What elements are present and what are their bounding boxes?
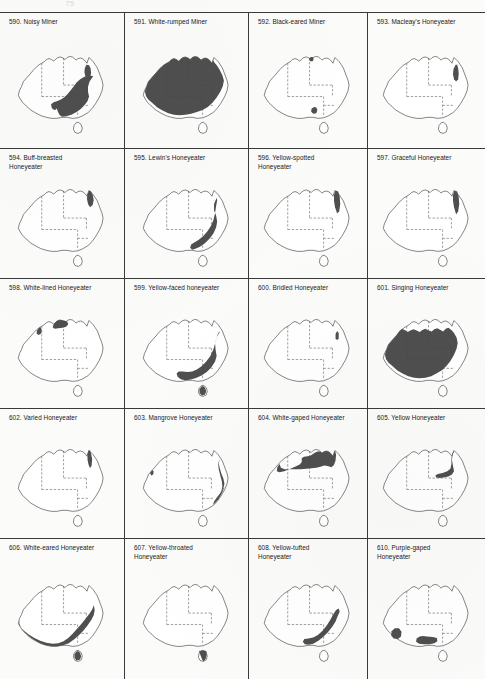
- map-caption: 600. Bridled Honeyeater: [258, 284, 364, 293]
- australia-map: [368, 171, 485, 276]
- australia-map: [368, 35, 485, 146]
- map-entry-name: Yellow-faced honeyeater: [148, 284, 219, 291]
- australia-map: [125, 561, 248, 677]
- australia-map: [249, 171, 367, 276]
- map-entry-number: 596.: [258, 154, 271, 161]
- map-entry-number: 607.: [134, 544, 147, 551]
- map-caption: 610. Purple-gaped Honeyeater: [377, 544, 482, 561]
- map-entry-number: 604.: [258, 414, 271, 421]
- map-entry-name: White-eared Honeyeater: [23, 544, 94, 551]
- australia-map: [125, 35, 248, 146]
- australia-map: [249, 301, 367, 406]
- map-entry-number: 603.: [134, 414, 147, 421]
- map-cell[interactable]: 595. Lewin's Honeyeater: [124, 148, 248, 278]
- map-caption: 592. Black-eared Miner: [258, 18, 364, 27]
- map-entry-number: 593.: [377, 18, 390, 25]
- australia-map: [368, 301, 485, 406]
- distribution-map-grid: 590. Noisy Miner: [0, 12, 485, 679]
- australia-map: [368, 431, 485, 536]
- map-caption: 599. Yellow-faced honeyeater: [134, 284, 245, 293]
- map-cell[interactable]: 607. Yellow-throated Honeyeater: [124, 538, 248, 679]
- australia-map: [0, 301, 124, 406]
- map-entry-name: Mangrove Honeyeater: [148, 414, 212, 421]
- map-entry-name: Varied Honeyeater: [23, 414, 77, 421]
- australia-map: [125, 301, 248, 406]
- map-entry-number: 592.: [258, 18, 271, 25]
- map-cell[interactable]: 600. Bridled Honeyeater: [248, 278, 367, 408]
- map-entry-name: Graceful Honeyeater: [391, 154, 451, 161]
- australia-map: [125, 431, 248, 536]
- map-entry-name: Lewin's Honeyeater: [148, 154, 205, 161]
- map-entry-number: 602.: [9, 414, 22, 421]
- australia-map: [125, 171, 248, 276]
- map-entry-number: 601.: [377, 284, 390, 291]
- map-entry-number: 605.: [377, 414, 390, 421]
- map-caption: 604. White-gaped Honeyeater: [258, 414, 364, 423]
- map-cell[interactable]: 592. Black-eared Miner: [248, 12, 367, 148]
- map-caption: 597. Graceful Honeyeater: [377, 154, 482, 163]
- map-caption: 601. Singing Honeyeater: [377, 284, 482, 293]
- map-cell[interactable]: 602. Varied Honeyeater: [0, 408, 124, 538]
- map-entry-number: 590.: [9, 18, 22, 25]
- australia-map: [249, 35, 367, 146]
- map-entry-number: 598.: [9, 284, 22, 291]
- australia-map: [0, 561, 124, 677]
- map-entry-number: 600.: [258, 284, 271, 291]
- australia-map: [0, 431, 124, 536]
- map-caption: 598. White-lined Honeyeater: [9, 284, 121, 293]
- map-cell[interactable]: 593. Macleay's Honeyeater: [367, 12, 485, 148]
- map-cell[interactable]: 596. Yellow-spotted Honeyeater: [248, 148, 367, 278]
- map-cell[interactable]: 594. Buff-breasted Honeyeater: [0, 148, 124, 278]
- map-cell[interactable]: 591. White-rumped Miner: [124, 12, 248, 148]
- atlas-page: 75 590. Noisy Miner: [0, 0, 485, 679]
- map-cell[interactable]: 606. White-eared Honeyeater: [0, 538, 124, 679]
- map-cell[interactable]: 599. Yellow-faced honeyeater: [124, 278, 248, 408]
- map-caption: 607. Yellow-throated Honeyeater: [134, 544, 245, 561]
- map-cell[interactable]: 605. Yellow Honeyeater: [367, 408, 485, 538]
- map-entry-number: 597.: [377, 154, 390, 161]
- map-entry-name: Singing Honeyeater: [391, 284, 448, 291]
- map-cell[interactable]: 604. White-gaped Honeyeater: [248, 408, 367, 538]
- australia-map: [249, 431, 367, 536]
- map-entry-name: Bridled Honeyeater: [272, 284, 328, 291]
- map-entry-name: Black-eared Miner: [272, 18, 325, 25]
- map-caption: 593. Macleay's Honeyeater: [377, 18, 482, 27]
- australia-map: [0, 35, 124, 146]
- map-entry-name: White-gaped Honeyeater: [272, 414, 344, 421]
- australia-map: [249, 561, 367, 677]
- map-caption: 602. Varied Honeyeater: [9, 414, 121, 423]
- map-caption: 594. Buff-breasted Honeyeater: [9, 154, 121, 171]
- map-caption: 608. Yellow-tufted Honeyeater: [258, 544, 364, 561]
- map-entry-number: 595.: [134, 154, 147, 161]
- map-entry-number: 591.: [134, 18, 147, 25]
- map-entry-name: Noisy Miner: [23, 18, 57, 25]
- map-cell[interactable]: 598. White-lined Honeyeater: [0, 278, 124, 408]
- map-caption: 591. White-rumped Miner: [134, 18, 245, 27]
- map-entry-number: 599.: [134, 284, 147, 291]
- map-entry-number: 610.: [377, 544, 390, 551]
- map-entry-number: 594.: [9, 154, 22, 161]
- map-entry-name: Yellow Honeyeater: [391, 414, 445, 421]
- map-caption: 606. White-eared Honeyeater: [9, 544, 121, 553]
- map-caption: 603. Mangrove Honeyeater: [134, 414, 245, 423]
- map-cell[interactable]: 610. Purple-gaped Honeyeater: [367, 538, 485, 679]
- australia-map: [368, 561, 485, 677]
- map-cell[interactable]: 597. Graceful Honeyeater: [367, 148, 485, 278]
- map-cell[interactable]: 603. Mangrove Honeyeater: [124, 408, 248, 538]
- map-entry-name: White-rumped Miner: [148, 18, 207, 25]
- map-entry-name: White-lined Honeyeater: [23, 284, 91, 291]
- map-entry-name: Macleay's Honeyeater: [391, 18, 455, 25]
- map-cell[interactable]: 590. Noisy Miner: [0, 12, 124, 148]
- map-caption: 590. Noisy Miner: [9, 18, 121, 27]
- map-caption: 596. Yellow-spotted Honeyeater: [258, 154, 364, 171]
- australia-map: [0, 171, 124, 276]
- map-entry-number: 606.: [9, 544, 22, 551]
- map-cell[interactable]: 608. Yellow-tufted Honeyeater: [248, 538, 367, 679]
- map-entry-number: 608.: [258, 544, 271, 551]
- map-caption: 605. Yellow Honeyeater: [377, 414, 482, 423]
- map-caption: 595. Lewin's Honeyeater: [134, 154, 245, 163]
- map-cell[interactable]: 601. Singing Honeyeater: [367, 278, 485, 408]
- page-number: 75: [0, 0, 140, 8]
